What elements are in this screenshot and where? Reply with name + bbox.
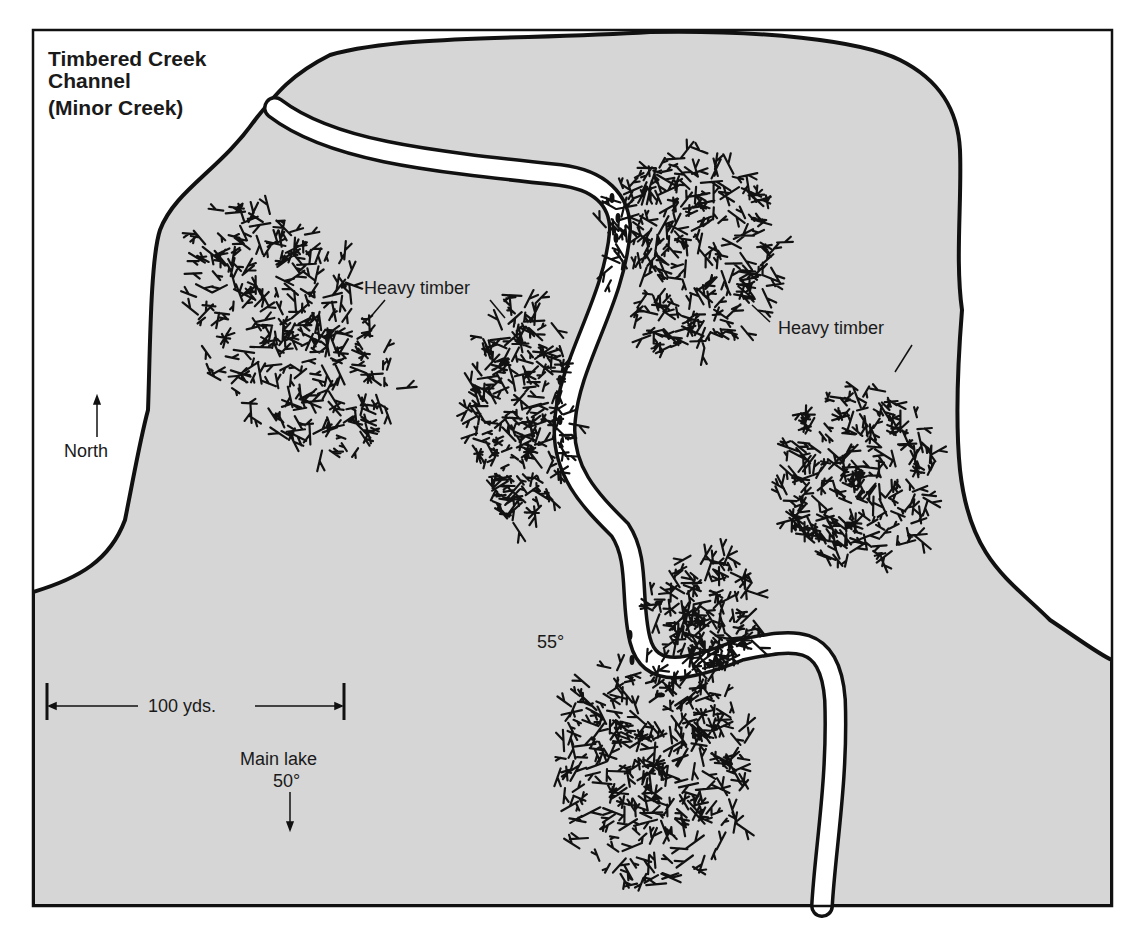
main-lake-label: Main lake: [240, 749, 317, 769]
heavy-timber-label-right: Heavy timber: [778, 318, 884, 338]
channel-temperature-label: 55°: [537, 632, 564, 652]
map-title-line2: Channel: [48, 70, 131, 92]
heavy-timber-label-left: Heavy timber: [364, 278, 470, 298]
map-subtitle: (Minor Creek): [48, 97, 183, 119]
scale-label: 100 yds.: [148, 696, 216, 716]
creek-channel-map: [0, 0, 1143, 935]
map-title-line1: Timbered Creek: [48, 48, 206, 70]
north-label: North: [64, 441, 108, 461]
main-lake-temperature-label: 50°: [273, 771, 300, 791]
